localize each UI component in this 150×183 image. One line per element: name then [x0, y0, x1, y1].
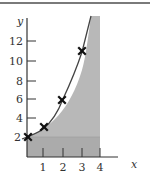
x-tick-label: 4 — [97, 161, 104, 174]
y-tick-label: 6 — [16, 93, 23, 106]
y-axis-label: y — [16, 15, 24, 28]
shaded-area — [27, 16, 100, 157]
chart: 12 10 8 6 4 2 1 2 3 4 y x — [0, 0, 150, 183]
y-tick-label: 10 — [9, 55, 23, 68]
x-axis-label: x — [131, 158, 138, 171]
y-tick-label: 8 — [16, 75, 23, 88]
x-tick-label: 2 — [60, 161, 67, 174]
x-tick-label: 3 — [79, 161, 86, 174]
y-tick-label: 2 — [14, 131, 21, 144]
y-tick-label: 4 — [16, 112, 23, 125]
y-tick-label: 12 — [9, 35, 23, 48]
y-ticks — [27, 41, 36, 118]
x-tick-label: 1 — [40, 161, 47, 174]
